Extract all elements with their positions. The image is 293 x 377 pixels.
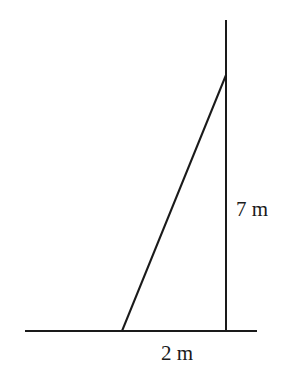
height-label: 7 m bbox=[236, 197, 268, 221]
ladder-diagram: 7 m 2 m bbox=[0, 0, 293, 377]
ladder-line bbox=[122, 75, 226, 331]
base-label: 2 m bbox=[161, 341, 193, 365]
